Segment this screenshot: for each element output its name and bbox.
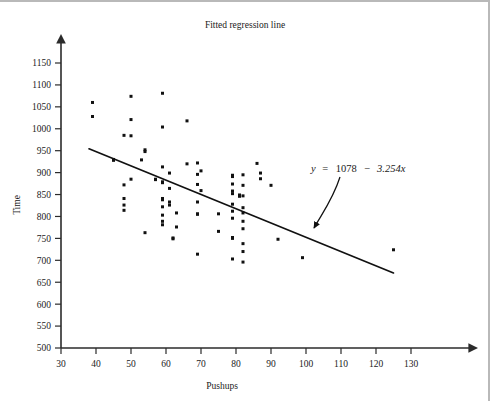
data-point bbox=[130, 178, 133, 181]
data-point bbox=[196, 253, 199, 256]
data-point bbox=[161, 92, 164, 95]
y-tick-label: 1150 bbox=[32, 58, 51, 68]
data-point bbox=[242, 173, 245, 176]
x-tick-label: 40 bbox=[91, 359, 101, 369]
y-tick-label: 1000 bbox=[32, 124, 51, 134]
data-point bbox=[130, 95, 133, 98]
data-point bbox=[130, 134, 133, 137]
data-point bbox=[242, 206, 245, 209]
data-point bbox=[242, 184, 245, 187]
data-point bbox=[270, 184, 273, 187]
annotation-arrow bbox=[314, 177, 340, 228]
data-point bbox=[259, 177, 262, 180]
y-tick-group: 5005506006507007508008509009501000105011… bbox=[32, 58, 61, 353]
data-point bbox=[91, 115, 94, 118]
y-tick-label: 600 bbox=[37, 300, 52, 310]
y-tick-label: 650 bbox=[37, 278, 52, 288]
equation-intercept: 1078 bbox=[336, 163, 357, 174]
data-point bbox=[196, 173, 199, 176]
data-point bbox=[91, 101, 94, 104]
data-point bbox=[242, 242, 245, 245]
data-point bbox=[144, 231, 147, 234]
data-point bbox=[196, 213, 199, 216]
y-tick-label: 1050 bbox=[32, 102, 51, 112]
x-axis-title: Pushups bbox=[206, 381, 238, 391]
data-point bbox=[144, 150, 147, 153]
data-point bbox=[231, 257, 234, 260]
x-tick-label: 60 bbox=[161, 359, 171, 369]
y-tick-label: 750 bbox=[37, 234, 52, 244]
x-tick-label: 110 bbox=[334, 359, 348, 369]
data-point bbox=[200, 169, 203, 172]
equation-equals: = bbox=[322, 163, 328, 174]
equation-y-symbol: y bbox=[310, 163, 316, 174]
data-point bbox=[200, 189, 203, 192]
y-tick-label: 850 bbox=[37, 190, 52, 200]
x-tick-label: 80 bbox=[231, 359, 241, 369]
data-point bbox=[161, 181, 164, 184]
data-point bbox=[301, 256, 304, 259]
data-point bbox=[168, 200, 171, 203]
data-point bbox=[168, 187, 171, 190]
x-tick-label: 100 bbox=[299, 359, 314, 369]
data-point bbox=[161, 223, 164, 226]
regression-equation-label: y = 1078 − 3.254x bbox=[310, 163, 406, 174]
data-point bbox=[175, 211, 178, 214]
data-point bbox=[242, 227, 245, 230]
equation-minus: − bbox=[364, 163, 370, 174]
y-tick-label: 900 bbox=[37, 168, 52, 178]
data-point bbox=[123, 197, 126, 200]
data-point bbox=[161, 165, 164, 168]
data-point bbox=[242, 261, 245, 264]
data-point bbox=[242, 194, 245, 197]
data-point bbox=[196, 200, 199, 203]
data-point bbox=[242, 220, 245, 223]
data-point bbox=[242, 250, 245, 253]
y-tick-label: 950 bbox=[37, 146, 52, 156]
x-axis-group: 30405060708090100110120130 Pushups bbox=[56, 348, 470, 391]
scatter-plot-svg: Fitted regression line 50055060065070075… bbox=[0, 0, 490, 401]
data-point bbox=[231, 217, 234, 220]
data-point bbox=[392, 248, 395, 251]
x-tick-label: 120 bbox=[369, 359, 384, 369]
data-point bbox=[123, 134, 126, 137]
data-point bbox=[123, 209, 126, 212]
data-point bbox=[175, 225, 178, 228]
x-tick-label: 30 bbox=[56, 359, 66, 369]
data-point bbox=[217, 212, 220, 215]
data-point bbox=[231, 192, 234, 195]
data-point bbox=[168, 204, 171, 207]
data-point bbox=[130, 118, 133, 121]
x-tick-label: 130 bbox=[404, 359, 419, 369]
y-tick-label: 1100 bbox=[32, 80, 51, 90]
x-tick-label: 50 bbox=[126, 359, 136, 369]
data-point bbox=[196, 161, 199, 164]
data-point bbox=[186, 162, 189, 165]
data-point bbox=[256, 162, 259, 165]
chart-title: Fitted regression line bbox=[205, 20, 285, 30]
x-tick-group: 30405060708090100110120130 bbox=[56, 348, 418, 369]
y-tick-label: 800 bbox=[37, 212, 52, 222]
y-tick-label: 550 bbox=[37, 321, 52, 331]
y-axis-title: Time bbox=[12, 195, 22, 215]
data-point bbox=[217, 230, 220, 233]
data-point bbox=[172, 237, 175, 240]
data-point bbox=[231, 175, 234, 178]
scatter-points-group bbox=[91, 92, 395, 264]
data-point bbox=[161, 126, 164, 129]
data-point bbox=[231, 237, 234, 240]
y-tick-label: 500 bbox=[37, 343, 52, 353]
equation-slope-term: 3.254x bbox=[376, 163, 406, 174]
y-tick-label: 700 bbox=[37, 256, 52, 266]
x-tick-label: 90 bbox=[266, 359, 276, 369]
data-point bbox=[161, 205, 164, 208]
data-point bbox=[186, 119, 189, 122]
data-point bbox=[231, 183, 234, 186]
data-point bbox=[277, 238, 280, 241]
y-axis-group: 5005506006507007508008509009501000105011… bbox=[12, 42, 61, 353]
data-point bbox=[154, 178, 157, 181]
data-point bbox=[123, 204, 126, 207]
data-point bbox=[231, 190, 234, 193]
chart-title-group: Fitted regression line bbox=[205, 20, 285, 30]
data-point bbox=[123, 183, 126, 186]
